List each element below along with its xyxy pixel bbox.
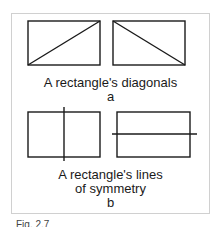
rectangle-vertical-symmetry xyxy=(28,107,100,161)
rectangle-diagonal-a2 xyxy=(113,21,185,65)
caption-a: A rectangle's diagonals xyxy=(11,76,210,89)
label-a: a xyxy=(11,90,210,103)
rectangle-horizontal-symmetry xyxy=(112,112,197,157)
rectangle-diagonal-a1 xyxy=(28,21,100,65)
figure-caption: Fig. 2.7 xyxy=(16,219,49,227)
caption-b-line2: of symmetry xyxy=(11,182,210,195)
label-b: b xyxy=(11,196,210,209)
caption-b-line1: A rectangle's lines xyxy=(11,168,210,181)
